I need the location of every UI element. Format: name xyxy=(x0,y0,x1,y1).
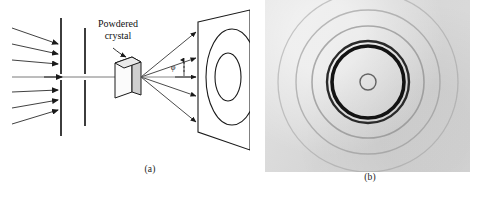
panel-a-schematic: Powdered crystal φ (a) xyxy=(0,0,250,198)
phi-angle-label: φ xyxy=(171,63,175,72)
ring-faint-ring-1 xyxy=(312,26,424,138)
diffraction-rings xyxy=(265,0,470,172)
ring-principal-ring-inner xyxy=(332,46,404,118)
panel-b-photograph xyxy=(265,0,470,172)
diffraction-figure: Powdered crystal φ (a) (b) xyxy=(0,0,492,198)
powdered-crystal-sample xyxy=(115,57,141,98)
caption-b: (b) xyxy=(338,172,402,182)
ring-principal-ring-outer xyxy=(327,41,409,123)
crystal-label-line1: Powdered xyxy=(82,18,154,30)
caption-a: (a) xyxy=(118,164,182,174)
ring-beam-stop-shadow xyxy=(360,74,376,90)
powdered-crystal-label: Powdered crystal xyxy=(82,18,154,41)
screen-ring-outer xyxy=(206,29,250,125)
incident-beam-arrows xyxy=(12,28,58,124)
ring-faint-ring-2 xyxy=(296,10,440,154)
crystal-label-line2: crystal xyxy=(82,30,154,42)
crystal-label-leader xyxy=(113,48,126,57)
screen-ring-inner xyxy=(215,53,241,101)
